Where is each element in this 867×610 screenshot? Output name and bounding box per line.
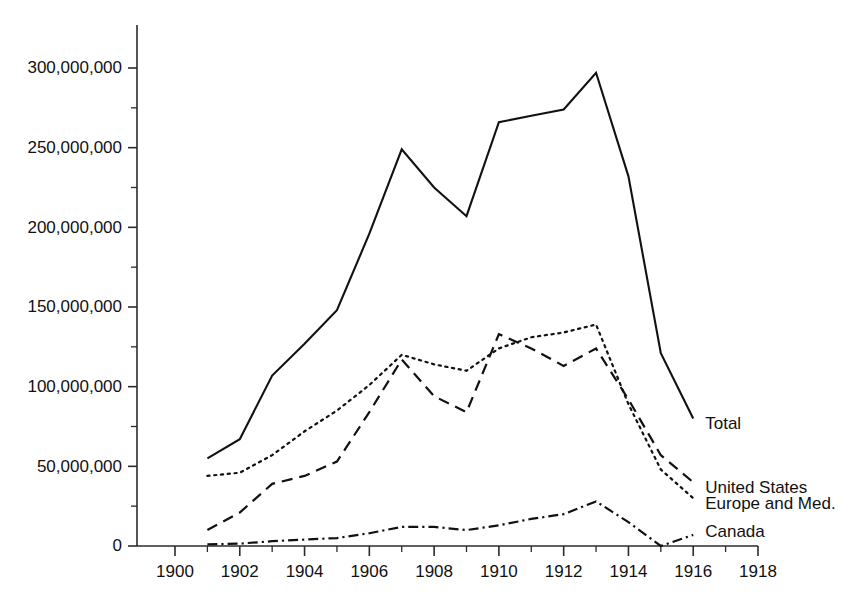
x-axis-tick-label: 1918 bbox=[739, 562, 777, 581]
x-axis-tick-label: 1912 bbox=[545, 562, 583, 581]
x-axis-tick-label: 1902 bbox=[221, 562, 259, 581]
x-axis-tick-label: 1916 bbox=[674, 562, 712, 581]
x-axis-tick-label: 1900 bbox=[156, 562, 194, 581]
series-lines bbox=[207, 73, 693, 546]
y-axis-tick-label: 0 bbox=[113, 536, 122, 555]
x-axis: 1900190219041906190819101912191419161918 bbox=[137, 546, 777, 581]
x-axis-tick-label: 1914 bbox=[610, 562, 648, 581]
y-axis-tick-label: 250,000,000 bbox=[27, 138, 122, 157]
x-axis-tick-label: 1908 bbox=[415, 562, 453, 581]
legend-label-total: Total bbox=[705, 414, 741, 433]
series-line-europe-and-med bbox=[207, 325, 693, 499]
y-axis-tick-label: 200,000,000 bbox=[27, 218, 122, 237]
series-line-total bbox=[207, 73, 693, 459]
x-axis-tick-label: 1910 bbox=[480, 562, 518, 581]
series-line-united-states bbox=[207, 334, 693, 530]
legend-label-canada: Canada bbox=[705, 522, 765, 541]
y-axis-tick-label: 50,000,000 bbox=[37, 457, 122, 476]
y-axis-tick-label: 300,000,000 bbox=[27, 58, 122, 77]
y-axis: 050,000,000100,000,000150,000,000200,000… bbox=[27, 25, 137, 555]
legend-label-europe-and-med: Europe and Med. bbox=[705, 494, 835, 513]
y-axis-tick-label: 150,000,000 bbox=[27, 297, 122, 316]
series-line-canada bbox=[207, 501, 693, 546]
y-axis-tick-label: 100,000,000 bbox=[27, 377, 122, 396]
x-axis-tick-label: 1904 bbox=[286, 562, 324, 581]
legend: TotalUnited StatesEurope and Med.Canada bbox=[705, 414, 835, 541]
x-axis-tick-label: 1906 bbox=[350, 562, 388, 581]
chart-container: 050,000,000100,000,000150,000,000200,000… bbox=[0, 0, 867, 610]
line-chart: 050,000,000100,000,000150,000,000200,000… bbox=[0, 0, 867, 610]
